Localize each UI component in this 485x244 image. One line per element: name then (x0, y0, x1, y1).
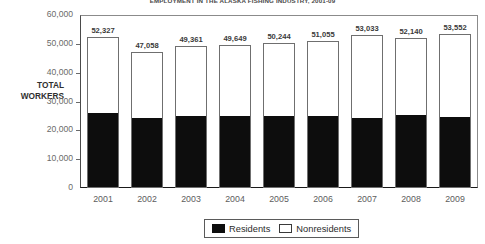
bar-value-label: 52,327 (91, 26, 114, 35)
bar-value-label: 51,055 (311, 30, 334, 39)
bar-group[interactable]: 53,552 (439, 15, 471, 188)
bar-segment-residents[interactable] (132, 118, 162, 187)
x-tick-label: 2002 (125, 194, 169, 204)
bar-value-label: 50,244 (267, 32, 290, 41)
bar-value-label: 49,649 (223, 34, 246, 43)
bar-segment-nonresidents[interactable] (175, 46, 207, 188)
x-tick-label: 2005 (257, 194, 301, 204)
bar-segment-nonresidents[interactable] (131, 52, 163, 188)
bar-segment-residents[interactable] (220, 116, 250, 188)
bar-segment-nonresidents[interactable] (263, 43, 295, 188)
bar-segment-nonresidents[interactable] (87, 37, 119, 188)
bar-segment-nonresidents[interactable] (439, 34, 471, 188)
chart-title: EMPLOYMENT IN THE ALASKA FISHING INDUSTR… (0, 0, 485, 4)
bar-segment-residents[interactable] (440, 117, 470, 187)
bar-group[interactable]: 49,649 (219, 15, 251, 188)
bar-segment-nonresidents[interactable] (395, 38, 427, 188)
bar-segment-residents[interactable] (352, 118, 382, 187)
legend-item-nonresidents[interactable]: Nonresidents (279, 224, 351, 234)
bar-segment-nonresidents[interactable] (307, 41, 339, 188)
y-tick-label: 60,000 (47, 9, 73, 19)
bar-value-label: 53,033 (355, 24, 378, 33)
x-tick-label: 2007 (345, 194, 389, 204)
legend-label-nonresidents: Nonresidents (296, 224, 351, 234)
chart-legend: Residents Nonresidents (204, 219, 359, 238)
legend-label-residents: Residents (229, 224, 270, 234)
bar-group[interactable]: 47,058 (131, 15, 163, 188)
x-tick-label: 2009 (433, 194, 477, 204)
bar-segment-residents[interactable] (396, 115, 426, 187)
x-tick-label: 2006 (301, 194, 345, 204)
bar-value-label: 52,140 (399, 27, 422, 36)
legend-item-residents[interactable]: Residents (212, 224, 270, 234)
bar-segment-residents[interactable] (176, 116, 206, 188)
y-tick-label: 0 (68, 182, 73, 192)
bar-group[interactable]: 49,361 (175, 15, 207, 188)
bar-group[interactable]: 51,055 (307, 15, 339, 188)
bar-group[interactable]: 53,033 (351, 15, 383, 188)
y-tick-label: 30,000 (47, 96, 73, 106)
bar-segment-nonresidents[interactable] (219, 45, 251, 188)
bar-segment-residents[interactable] (88, 113, 118, 187)
bar-segment-residents[interactable] (308, 116, 338, 187)
x-tick-label: 2004 (213, 194, 257, 204)
bars-layer: 52,32747,05849,36149,64950,24451,05553,0… (81, 15, 477, 188)
bar-value-label: 47,058 (135, 41, 158, 50)
legend-swatch-nonresidents-icon (279, 224, 292, 233)
bar-value-label: 49,361 (179, 35, 202, 44)
y-tick-label: 50,000 (47, 38, 73, 48)
bar-group[interactable]: 52,140 (395, 15, 427, 188)
y-tick-label: 20,000 (47, 124, 73, 134)
bar-segment-nonresidents[interactable] (351, 35, 383, 188)
x-tick-label: 2008 (389, 194, 433, 204)
x-tick-label: 2003 (169, 194, 213, 204)
bar-group[interactable]: 50,244 (263, 15, 295, 188)
y-tick-label: 40,000 (47, 67, 73, 77)
bar-segment-residents[interactable] (264, 116, 294, 187)
legend-swatch-residents-icon (212, 224, 225, 233)
x-axis: 200120022003200420052006200720082009 (81, 194, 477, 208)
x-tick-label: 2001 (81, 194, 125, 204)
bar-value-label: 53,552 (443, 23, 466, 32)
y-tick-label: 10,000 (47, 153, 73, 163)
bar-group[interactable]: 52,327 (87, 15, 119, 188)
